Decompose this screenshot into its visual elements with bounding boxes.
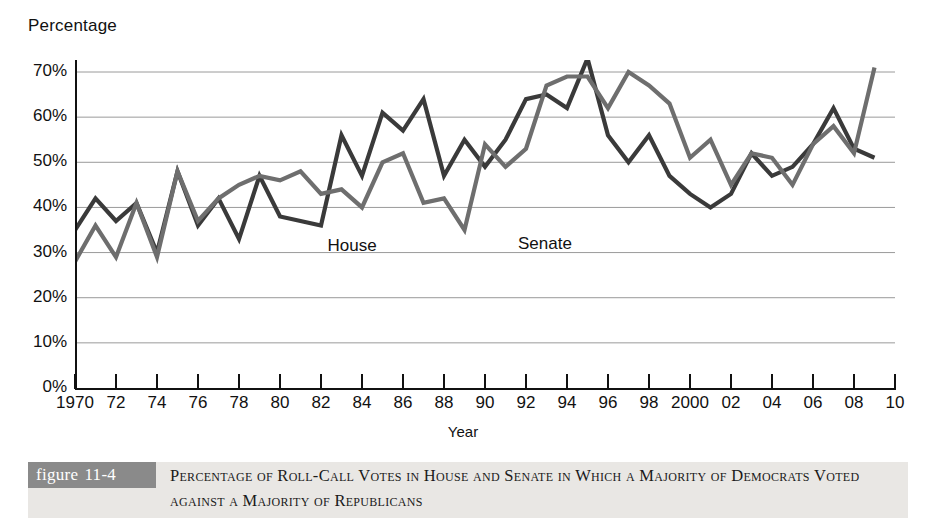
x-tick-2002 — [730, 374, 732, 389]
x-tick-1994 — [566, 374, 568, 389]
x-tick-2010 — [894, 374, 896, 389]
x-tick-label-1974: 74 — [148, 393, 167, 413]
chart-svg — [75, 60, 895, 388]
figure-caption-text: Percentage of Roll-Call Votes in House a… — [170, 463, 900, 513]
x-tick-1980 — [279, 374, 281, 389]
x-axis-title: Year — [0, 423, 926, 440]
x-tick-1990 — [484, 374, 486, 389]
x-tick-label-2002: 02 — [722, 393, 741, 413]
x-tick-1998 — [648, 374, 650, 389]
y-tick-label-20: 20% — [9, 287, 67, 307]
series-line-house — [75, 60, 875, 253]
x-tick-label-1998: 98 — [640, 393, 659, 413]
x-tick-label-1990: 90 — [476, 393, 495, 413]
x-tick-1992 — [525, 374, 527, 389]
x-tick-label-1988: 88 — [435, 393, 454, 413]
x-tick-label-2006: 06 — [804, 393, 823, 413]
x-tick-2006 — [812, 374, 814, 389]
x-tick-1982 — [320, 374, 322, 389]
series-group — [75, 60, 875, 262]
x-tick-label-1982: 82 — [312, 393, 331, 413]
series-label-house: House — [328, 236, 377, 256]
x-tick-1988 — [443, 374, 445, 389]
y-axis-line — [75, 60, 77, 389]
y-tick-label-70: 70% — [9, 61, 67, 81]
figure-badge-label: figure — [36, 465, 78, 484]
gridlines-group — [75, 72, 895, 388]
figure-badge-number: 11-4 — [84, 465, 116, 484]
x-tick-1978 — [238, 374, 240, 389]
plot-area — [75, 60, 895, 388]
x-tick-1976 — [197, 374, 199, 389]
figure-caption-bar: figure11-4 Percentage of Roll-Call Votes… — [28, 462, 908, 518]
x-tick-label-2008: 08 — [845, 393, 864, 413]
y-tick-label-30: 30% — [9, 242, 67, 262]
x-tick-label-1980: 80 — [271, 393, 290, 413]
x-tick-1996 — [607, 374, 609, 389]
x-tick-label-1992: 92 — [517, 393, 536, 413]
y-tick-label-60: 60% — [9, 106, 67, 126]
y-tick-label-10: 10% — [9, 332, 67, 352]
x-tick-1974 — [156, 374, 158, 389]
x-tick-2000 — [689, 374, 691, 389]
x-tick-label-1984: 84 — [353, 393, 372, 413]
figure-container: Percentage 70%60%50%40%30%20%10%0% 19707… — [0, 0, 926, 528]
series-label-senate: Senate — [518, 234, 572, 254]
x-tick-1972 — [115, 374, 117, 389]
figure-number-badge: figure11-4 — [28, 462, 156, 488]
x-tick-1984 — [361, 374, 363, 389]
x-tick-label-2000: 2000 — [671, 393, 709, 413]
x-tick-label-1994: 94 — [558, 393, 577, 413]
x-tick-label-1972: 72 — [107, 393, 126, 413]
x-tick-label-1996: 96 — [599, 393, 618, 413]
x-tick-label-1986: 86 — [394, 393, 413, 413]
x-tick-2008 — [853, 374, 855, 389]
y-tick-label-40: 40% — [9, 196, 67, 216]
x-tick-label-1970: 1970 — [56, 393, 94, 413]
x-tick-label-2004: 04 — [763, 393, 782, 413]
x-tick-1986 — [402, 374, 404, 389]
x-tick-1970 — [74, 374, 76, 389]
x-tick-label-2010: 10 — [886, 393, 905, 413]
y-axis-title: Percentage — [28, 16, 117, 36]
x-tick-2004 — [771, 374, 773, 389]
series-line-senate — [75, 67, 875, 261]
x-tick-label-1976: 76 — [189, 393, 208, 413]
y-tick-label-50: 50% — [9, 151, 67, 171]
x-tick-label-1978: 78 — [230, 393, 249, 413]
